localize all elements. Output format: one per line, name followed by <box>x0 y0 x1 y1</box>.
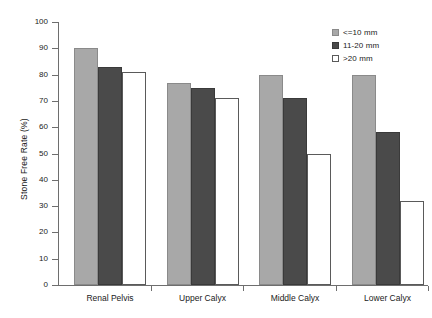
bar <box>376 132 400 285</box>
x-axis-tick <box>151 286 152 291</box>
y-axis-tick-label: 40 <box>20 176 48 184</box>
x-axis-tick <box>428 286 429 291</box>
bar <box>74 48 98 285</box>
x-axis-category-label: Upper Calyx <box>155 293 251 303</box>
bar <box>191 88 215 285</box>
bar-chart: Stone Free Rate (%) 10090807060504030201… <box>0 0 432 318</box>
x-axis-category-label: Lower Calyx <box>340 293 432 303</box>
bar <box>283 98 307 285</box>
legend-item-label: <=10 mm <box>343 28 378 37</box>
bar-cluster <box>167 22 239 285</box>
y-axis-tick-label: 80 <box>20 71 48 79</box>
legend-item: <=10 mm <box>332 26 428 39</box>
bar <box>307 154 331 286</box>
y-axis-tick-label: 60 <box>20 123 48 131</box>
legend-swatch-icon <box>332 42 339 49</box>
y-axis-tick-label: 10 <box>20 255 48 263</box>
bar <box>167 83 191 286</box>
x-axis-category-label: Renal Pelvis <box>62 293 158 303</box>
legend-item: >20 mm <box>332 52 428 65</box>
bar <box>98 67 122 285</box>
bar <box>400 201 424 285</box>
y-axis-tick-label: 90 <box>20 44 48 52</box>
legend-item-label: 11-20 mm <box>343 41 379 50</box>
legend-swatch-icon <box>332 29 339 36</box>
legend: <=10 mm11-20 mm>20 mm <box>332 26 428 65</box>
bar <box>259 75 283 285</box>
x-axis-tick <box>243 286 244 291</box>
x-axis-tick <box>336 286 337 291</box>
bar <box>215 98 239 285</box>
y-axis-tick <box>52 285 58 286</box>
legend-item: 11-20 mm <box>332 39 428 52</box>
legend-swatch-icon <box>332 55 339 62</box>
bar-cluster <box>74 22 146 285</box>
legend-item-label: >20 mm <box>343 54 373 63</box>
bar-cluster <box>259 22 331 285</box>
y-axis-tick-label: 100 <box>20 18 48 26</box>
bar <box>352 75 376 285</box>
y-axis-tick-label: 50 <box>20 150 48 158</box>
bar <box>122 72 146 285</box>
y-axis-tick-label: 30 <box>20 202 48 210</box>
x-axis-category-label: Middle Calyx <box>247 293 343 303</box>
y-axis-tick-label: 70 <box>20 97 48 105</box>
y-axis-tick-label: 20 <box>20 228 48 236</box>
y-axis-tick-label: 0 <box>20 281 48 289</box>
